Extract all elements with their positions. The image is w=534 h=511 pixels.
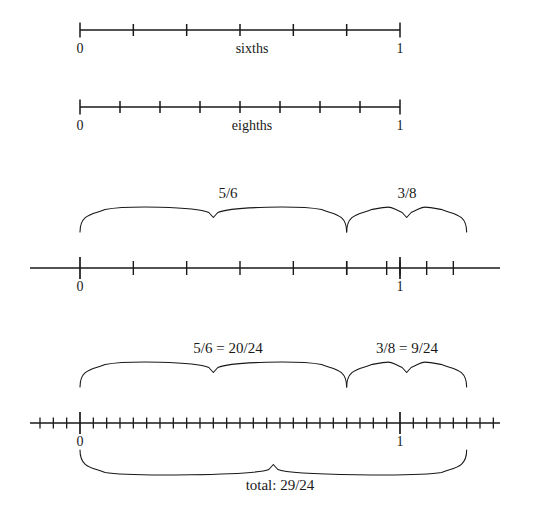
sixths-name-label: sixths	[236, 42, 269, 56]
twentyfourths-one-label: 1	[397, 435, 404, 449]
brace-sum-twentyfourths-total	[80, 450, 467, 475]
sum-line-zero-label: 0	[77, 280, 84, 294]
brace-sum-twentyfourths-0	[80, 362, 347, 387]
brace-sum-sixths-eighths-0	[80, 207, 347, 232]
brace-sum-twentyfourths-1	[347, 362, 467, 387]
brace-label-five-sixths-equals: 5/6 = 20/24	[193, 341, 262, 356]
eighths-one-label: 1	[397, 119, 404, 133]
brace-sum-sixths-eighths-1	[347, 207, 467, 232]
eighths-name-label: eighths	[232, 119, 272, 133]
brace-label-three-eighths-equals: 3/8 = 9/24	[376, 341, 438, 356]
brace-label-three-eighths: 3/8	[397, 186, 416, 201]
brace-label-five-sixths: 5/6	[218, 186, 237, 201]
twentyfourths-zero-label: 0	[77, 435, 84, 449]
total-brace-label: total: 29/24	[246, 478, 315, 493]
sixths-one-label: 1	[397, 42, 404, 56]
figure-canvas: 0 1 sixths 0 1 eighths 5/6 3/8 0 1 5/6 =…	[0, 0, 534, 511]
sum-line-one-label: 1	[397, 280, 404, 294]
eighths-zero-label: 0	[77, 119, 84, 133]
sixths-zero-label: 0	[77, 42, 84, 56]
